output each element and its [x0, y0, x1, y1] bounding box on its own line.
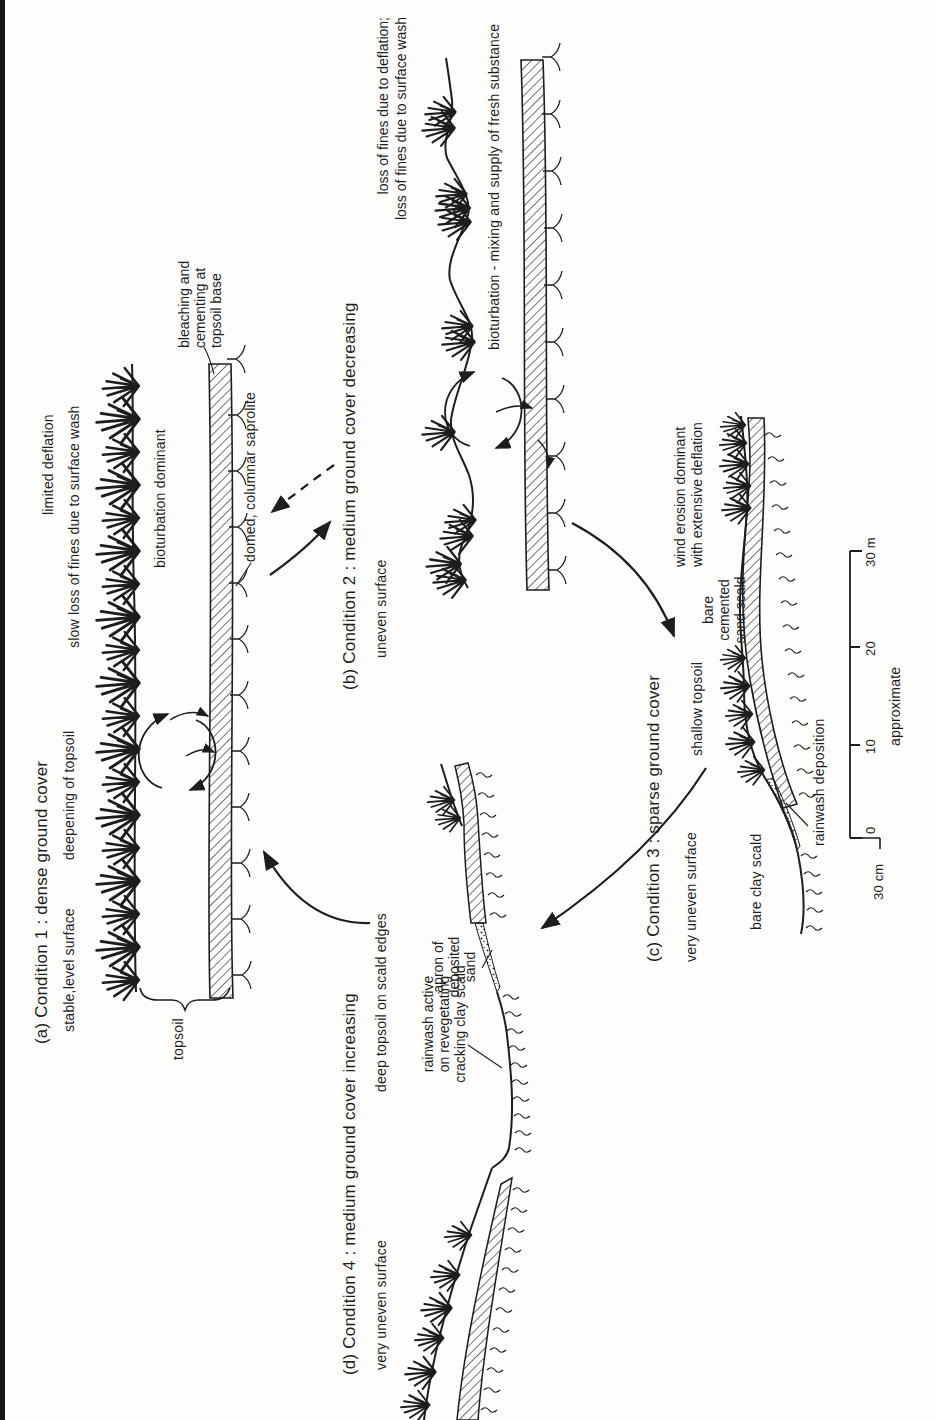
- sq-mark: [785, 649, 801, 654]
- sq-mark: [515, 1131, 531, 1136]
- scale-tick-20: 20: [864, 641, 878, 656]
- condition-a-title: (a) Condition 1 : dense ground cover: [33, 761, 51, 1044]
- arrow-1-to-2: [270, 522, 330, 575]
- tuft-mark: [97, 860, 140, 905]
- label-domed-columnar-saprolite: domed, columnar saprolite: [243, 392, 258, 562]
- sq-mark: [503, 995, 519, 1000]
- scan-edge-strip: [0, 0, 5, 1420]
- sq-mark: [515, 1148, 531, 1153]
- sq-mark: [807, 908, 823, 913]
- tuft-mark: [97, 728, 140, 773]
- scale-30cm: 30 cm: [872, 864, 886, 900]
- tuft-mark: [103, 764, 139, 802]
- sq-mark: [806, 926, 822, 931]
- tuft-mark: [726, 701, 753, 729]
- sq-mark: [505, 1012, 521, 1017]
- condition-c-title: (c) Condition 3 : sparse ground cover: [645, 675, 663, 962]
- label-limited-deflation: limited deflation: [41, 414, 56, 515]
- tuft-mark: [721, 672, 750, 702]
- sq-mark: [509, 1046, 525, 1051]
- tuft-mark: [422, 416, 454, 450]
- tuft-mark: [421, 1293, 451, 1325]
- arrow-4-to-1: [264, 852, 370, 923]
- tuft-mark: [431, 1261, 460, 1291]
- hook-mark: [232, 905, 250, 933]
- sq-mark: [783, 625, 799, 630]
- hook-mark: [542, 43, 560, 71]
- label-topsoil: topsoil: [171, 1018, 186, 1060]
- hook-mark: [545, 328, 563, 356]
- tuft-mark: [103, 896, 139, 934]
- sq-mark: [476, 773, 492, 778]
- hook-mark: [233, 961, 251, 989]
- arrow-3-to-4: [542, 768, 706, 928]
- arrow-2-to-1-dashed: [272, 465, 334, 512]
- hook-mark: [232, 849, 250, 877]
- label-bare-clay-scald: bare clay scald: [749, 834, 764, 930]
- label-loss-of-fines: loss of fines due to deflation; loss of …: [374, 17, 410, 232]
- label-rainwash-deposition: rainwash deposition: [812, 718, 827, 846]
- hook-mark: [547, 499, 565, 527]
- scale-tick-0: 0: [864, 827, 878, 834]
- sq-mark: [772, 505, 788, 510]
- tuft-mark: [405, 1357, 435, 1389]
- sq-mark: [770, 481, 786, 486]
- sq-mark: [481, 1408, 497, 1413]
- condition-a-subtitle-stable: stable,level surface: [62, 908, 77, 1032]
- cycle-arrows: [264, 465, 706, 928]
- sq-mark: [490, 1348, 506, 1353]
- sq-mark: [484, 853, 500, 858]
- sq-mark: [513, 1188, 529, 1193]
- sq-mark: [490, 913, 506, 918]
- condition-a-subtitle-deepening: deepening of topsoil: [62, 731, 77, 860]
- condition-b-title: (b) Condition 2 : medium ground cover de…: [341, 302, 359, 690]
- sq-mark: [806, 890, 822, 895]
- tuft-mark: [103, 830, 139, 868]
- scanned-page: (a) Condition 1 : dense ground cover sta…: [0, 0, 937, 1420]
- sq-mark: [513, 1097, 529, 1102]
- sq-mark: [496, 1308, 512, 1313]
- tuft-mark: [103, 632, 139, 670]
- sq-mark: [507, 1029, 523, 1034]
- tuft-mark: [97, 596, 140, 641]
- sq-mark: [508, 1228, 524, 1233]
- sq-mark: [511, 1208, 527, 1213]
- scale-bar: [850, 551, 880, 849]
- sq-mark: [482, 833, 498, 838]
- sq-mark: [781, 601, 797, 606]
- tuft-mark: [415, 1324, 444, 1354]
- tuft-mark: [97, 926, 140, 971]
- sq-mark: [801, 854, 817, 859]
- scale-approximate: approximate: [888, 667, 903, 746]
- sq-mark: [514, 1114, 530, 1119]
- tuft-mark: [97, 662, 140, 707]
- condition-a-sketch: [97, 345, 251, 1010]
- sq-mark: [511, 1063, 527, 1068]
- sq-mark: [779, 577, 795, 582]
- sq-mark: [486, 873, 502, 878]
- label-shallow-topsoil: shallow topsoil: [690, 662, 705, 756]
- sq-mark: [484, 1388, 500, 1393]
- hook-mark: [231, 737, 249, 765]
- hook-mark: [548, 556, 566, 584]
- figure-linework: [0, 0, 937, 1420]
- condition-c-subtitle: very uneven surface: [684, 832, 699, 962]
- sq-mark: [502, 1268, 518, 1273]
- label-bare-cemented-sand-scald: bare cemented sand scald: [700, 562, 748, 658]
- tuft-mark: [97, 794, 140, 839]
- sq-mark: [480, 813, 496, 818]
- sq-mark: [488, 893, 504, 898]
- condition-d-subtitle: very uneven surface: [374, 1240, 389, 1370]
- sq-mark: [499, 1288, 515, 1293]
- sq-mark: [478, 793, 494, 798]
- sq-mark: [804, 872, 820, 877]
- tuft-mark: [103, 698, 139, 736]
- sq-mark: [794, 745, 810, 750]
- label-slow-loss-of-fines: slow loss of fines due to surface wash: [67, 405, 82, 648]
- tuft-mark: [738, 757, 765, 785]
- tuft-mark: [445, 1222, 472, 1250]
- label-deep-topsoil-scald-edges: deep topsoil on scald edges: [374, 913, 389, 1092]
- tuft-mark: [726, 728, 755, 758]
- sq-mark: [768, 457, 784, 462]
- condition-d-title: (d) Condition 4 : medium ground cover in…: [341, 993, 359, 1375]
